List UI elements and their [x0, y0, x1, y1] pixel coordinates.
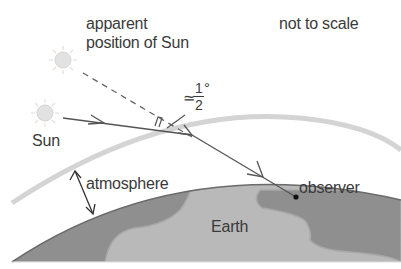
- apparent-sun-icon: [49, 46, 77, 74]
- observer-point: [293, 194, 298, 199]
- degree-symbol: °: [204, 79, 210, 96]
- angle-denominator: 2: [195, 97, 203, 113]
- angle-numerator: 1: [195, 80, 203, 96]
- diagram-canvas: [0, 0, 401, 269]
- sun-icon: [31, 99, 59, 127]
- sun-label: Sun: [32, 132, 60, 150]
- observer-label: observer: [299, 179, 360, 197]
- apparent-sun-label-line2: position of Sun: [86, 34, 189, 52]
- atmosphere-label: atmosphere: [86, 175, 169, 193]
- apparent-sun-label-line1: apparent: [86, 15, 148, 33]
- not-to-scale-label: not to scale: [279, 15, 358, 33]
- earth-label: Earth: [211, 218, 248, 236]
- angle-label: ≃ 1 2 °: [183, 80, 223, 116]
